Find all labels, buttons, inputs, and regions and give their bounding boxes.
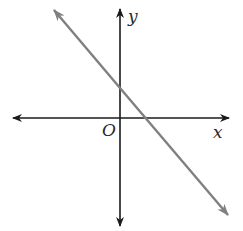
origin-label: O: [102, 122, 116, 139]
y-axis-label: y: [128, 8, 138, 25]
graphed-line-lower: [120, 88, 228, 215]
graphed-line: [54, 10, 120, 88]
x-axis-label: x: [213, 124, 223, 141]
coordinate-plane: [0, 0, 243, 231]
